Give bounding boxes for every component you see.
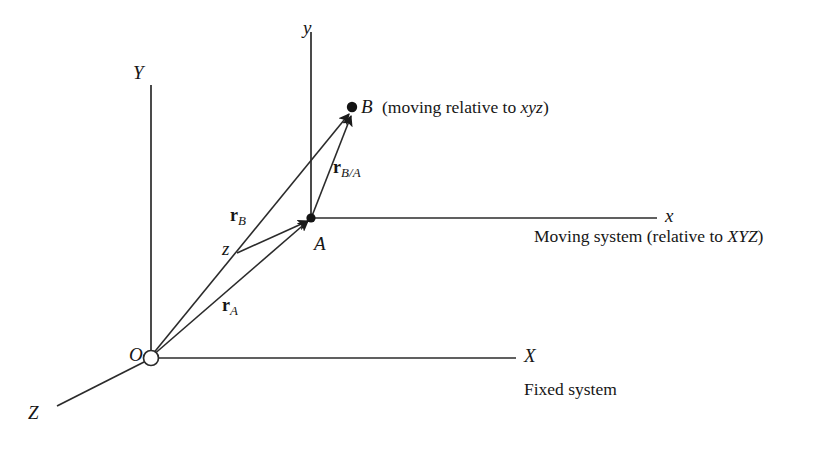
- axis-label-y: y: [303, 18, 311, 37]
- point-marker-B: [347, 102, 357, 112]
- moving-system-caption-text-2: ): [758, 226, 764, 246]
- point-B-caption-frame-name: xyz: [521, 97, 543, 117]
- vector-r-A: [152, 221, 308, 356]
- vector-label-r-A: rA: [222, 296, 238, 318]
- axis-label-Y: Y: [133, 63, 144, 82]
- origin-point-O: [144, 351, 159, 366]
- axis-label-x: x: [665, 206, 673, 225]
- vector-label-r-B-subscript: B: [238, 213, 246, 228]
- moving-system-caption: Moving system (relative to XYZ): [534, 228, 763, 246]
- vector-label-r-B-over-A: rB/A: [333, 158, 361, 180]
- point-B-caption-text-2: ): [543, 97, 549, 117]
- vector-label-r-B-symbol: r: [230, 205, 238, 225]
- point-marker-A: [306, 213, 315, 222]
- point-B-caption: (moving relative to xyz): [382, 99, 549, 117]
- vector-label-r-B: rB: [230, 206, 246, 228]
- moving-system-caption-frame-name: XYZ: [727, 226, 757, 246]
- axis-label-z: z: [222, 239, 229, 258]
- point-label-A: A: [314, 234, 326, 253]
- moving-system-caption-text-1: Moving system (relative to: [534, 226, 727, 246]
- origin-label-O: O: [129, 345, 143, 364]
- vector-label-r-A-symbol: r: [222, 295, 230, 315]
- relative-motion-diagram: Y X Z O Fixed system y x z A Moving syst…: [0, 0, 827, 457]
- axis-line-Z-fixed: [57, 360, 148, 406]
- point-B-caption-text-1: (moving relative to: [382, 97, 521, 117]
- vector-label-r-A-subscript: A: [230, 303, 238, 318]
- point-label-B: B: [361, 97, 373, 116]
- vector-label-r-B-over-A-subscript: B/A: [341, 165, 361, 180]
- vector-label-r-B-over-A-symbol: r: [333, 157, 341, 177]
- fixed-system-caption: Fixed system: [524, 381, 617, 399]
- axis-label-Z: Z: [28, 403, 39, 422]
- axis-label-X: X: [524, 346, 536, 365]
